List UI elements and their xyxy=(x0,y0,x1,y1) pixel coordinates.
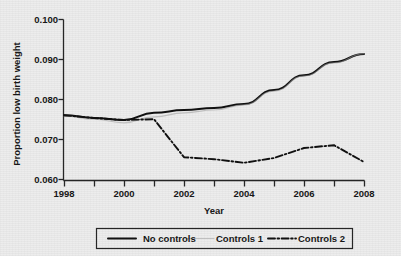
x-tick-label-2008: 2008 xyxy=(353,188,374,199)
y-tick-label-0.090: 0.090 xyxy=(34,54,58,65)
x-tick-label-1998: 1998 xyxy=(53,188,74,199)
x-tick-label-2004: 2004 xyxy=(233,188,255,199)
y-axis-title: Proportion low birth weight xyxy=(11,41,22,165)
y-tick-label-0.080: 0.080 xyxy=(34,94,58,105)
x-tick-label-2006: 2006 xyxy=(293,188,314,199)
x-tick-label-2000: 2000 xyxy=(113,188,134,199)
chart-page: Proportion low birth weight 0.100 0.090 … xyxy=(0,0,401,256)
y-tick-label-0.070: 0.070 xyxy=(34,134,58,145)
legend-label-controls-2: Controls 2 xyxy=(298,233,345,244)
y-tick-label-0.100: 0.100 xyxy=(34,14,58,25)
legend-label-no-controls: No controls xyxy=(143,233,196,244)
x-axis xyxy=(64,181,365,187)
line-chart: Proportion low birth weight 0.100 0.090 … xyxy=(0,0,401,256)
series-line-controls-1 xyxy=(64,54,364,123)
y-axis xyxy=(59,20,64,181)
x-tick-label-2002: 2002 xyxy=(173,188,194,199)
y-tick-label-0.060: 0.060 xyxy=(34,174,58,185)
x-axis-title: Year xyxy=(204,205,224,216)
series-layer xyxy=(64,54,364,163)
legend-label-controls-1: Controls 1 xyxy=(216,233,264,244)
series-line-controls-2 xyxy=(64,115,364,163)
